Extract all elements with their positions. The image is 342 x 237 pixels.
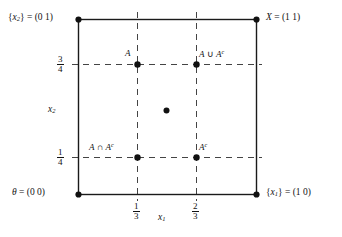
point-A-intersect-Ac (134, 154, 140, 160)
corner-point-bottom-left (75, 191, 81, 197)
ytick-one-quarter-numerator: 1 (57, 148, 64, 157)
ytick-one-quarter-denominator: 4 (57, 157, 64, 167)
bottom-right-corner-brace-open: { (266, 187, 271, 197)
bottom-right-corner-tail: } = (1 0) (278, 187, 311, 197)
point-center (164, 108, 170, 114)
point-A-intersect-Ac-label: A ∩ Ac (89, 142, 114, 152)
corner-point-top-left (75, 16, 81, 22)
x-axis-label: x1 (158, 213, 165, 223)
xtick-one-third: 1 3 (133, 202, 140, 222)
point-Ac-label: Ac (199, 142, 207, 152)
ytick-three-quarters-numerator: 3 (57, 55, 64, 64)
bottom-right-corner-label: {x1} = (1 0) (266, 188, 311, 198)
ytick-one-quarter: 1 4 (57, 148, 64, 168)
bottom-left-corner-label: θ = (0 0) (12, 188, 45, 198)
ytick-three-quarters-denominator: 4 (57, 64, 64, 74)
unit-square-frame (79, 20, 257, 195)
point-Ac (193, 154, 199, 160)
xtick-one-third-numerator: 1 (133, 202, 140, 211)
x-axis-label-subscript: 1 (162, 215, 165, 222)
bottom-right-corner-text: x1 (271, 187, 278, 197)
top-left-corner-label: {{xx2} = (0 1) (8, 13, 53, 23)
y-axis-label-subscript: 2 (52, 107, 55, 114)
set-Ac-symbol: Ac (216, 49, 224, 59)
corner-point-top-right (253, 16, 259, 22)
bottom-left-corner-tail: = (0 0) (17, 187, 45, 197)
figure-unit-square-diagram: {{xx2} = (0 1) X = (1 1) θ = (0 0) {x1} … (0, 0, 342, 237)
point-A-union-Ac-label: A ∪ Ac (199, 49, 224, 59)
ytick-three-quarters: 3 4 (57, 55, 64, 75)
xtick-two-thirds-numerator: 2 (192, 202, 199, 211)
intersection-operator-icon: ∩ (95, 142, 106, 152)
union-operator-icon: ∪ (205, 49, 217, 59)
diagram-canvas (0, 0, 342, 237)
top-left-corner-brace-open: { (8, 12, 13, 22)
point-A-label: A (125, 49, 131, 58)
point-A-union-Ac (193, 61, 199, 67)
set-Ac-symbol: Ac (199, 142, 207, 152)
top-left-corner-text: x2 (13, 12, 20, 22)
top-left-corner-tail: } = (0 1) (20, 12, 53, 22)
top-right-corner-label: X = (1 1) (266, 13, 300, 23)
y-axis-label: x2 (48, 105, 55, 115)
top-right-corner-tail: = (1 1) (272, 12, 300, 22)
corner-point-bottom-right (253, 191, 259, 197)
xtick-one-third-denominator: 3 (133, 211, 140, 221)
xtick-two-thirds-denominator: 3 (192, 211, 199, 221)
point-A (134, 61, 140, 67)
xtick-two-thirds: 2 3 (192, 202, 199, 222)
set-Ac-symbol: Ac (106, 142, 114, 152)
